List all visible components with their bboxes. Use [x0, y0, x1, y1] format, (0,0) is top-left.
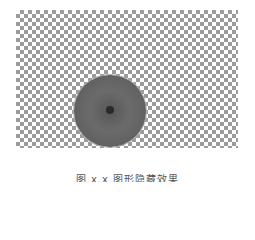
figure-caption: 图 x.x 图形隐藏效果 [0, 171, 255, 182]
orange-slice-image [74, 75, 146, 147]
orange-core [106, 106, 114, 114]
